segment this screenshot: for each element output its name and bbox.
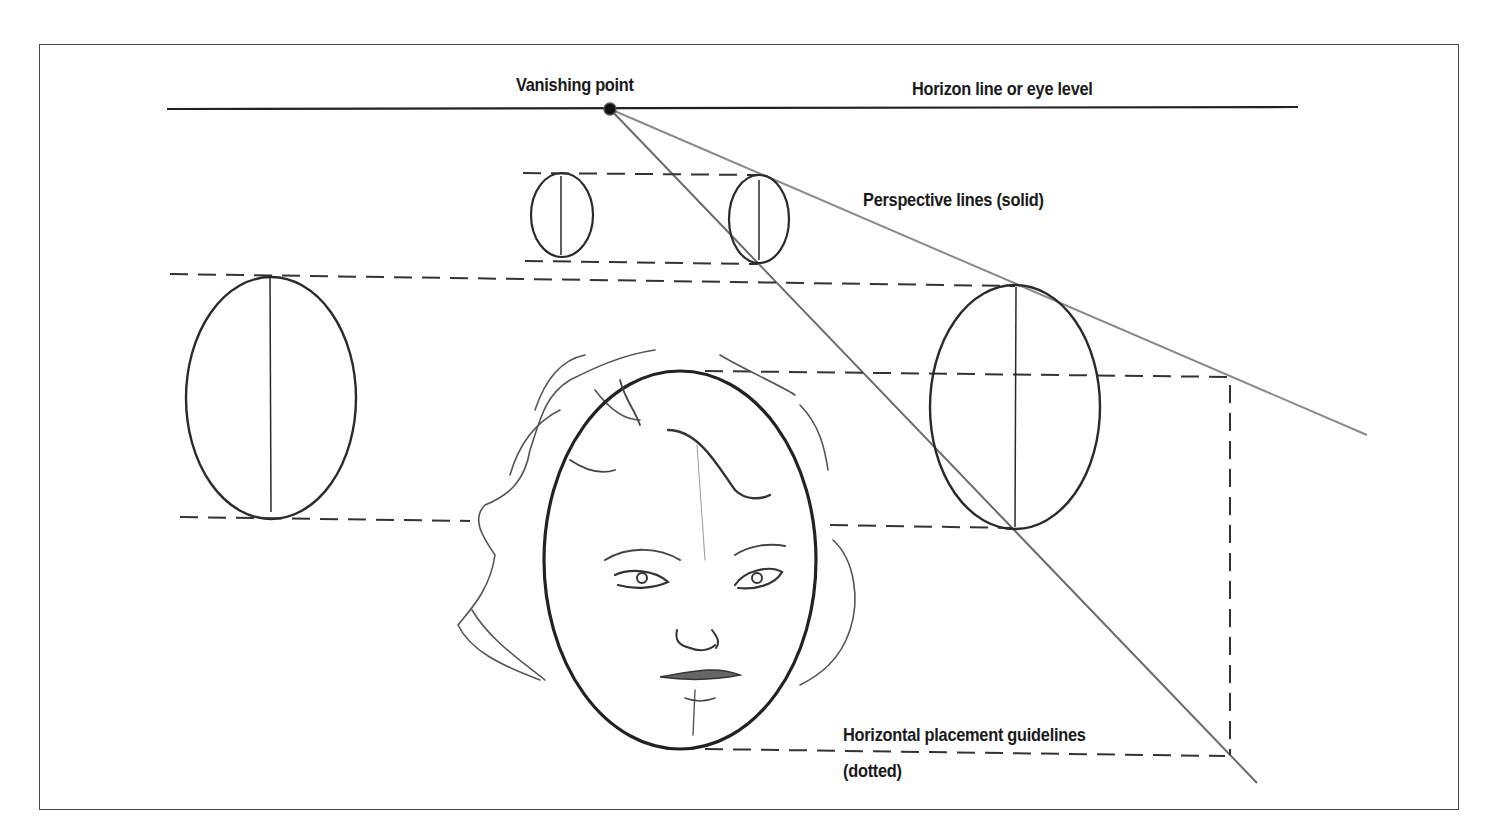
diagram-frame	[39, 44, 1459, 810]
horizon-label: Horizon line or eye level	[912, 78, 1093, 100]
perspective-lines-label: Perspective lines (solid)	[863, 189, 1044, 211]
vanishing-point-label: Vanishing point	[516, 74, 634, 96]
guidelines-label-line2: (dotted)	[843, 760, 902, 782]
guidelines-label-line1: Horizontal placement guidelines	[843, 724, 1086, 746]
